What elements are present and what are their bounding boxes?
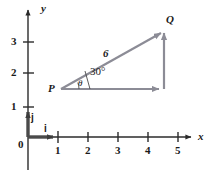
x-tick-label-1: 1 (55, 145, 61, 156)
point-p-label: P (48, 83, 55, 94)
origin-label: 0 (18, 139, 24, 150)
y-tick-label-3: 3 (11, 36, 17, 47)
x-tick-label-2: 2 (85, 145, 91, 156)
diagram-canvas (0, 0, 216, 176)
x-axis-label: x (198, 131, 204, 142)
point-q-label: Q (166, 14, 174, 25)
y-axis-label: y (41, 3, 46, 14)
y-tick-label-1: 1 (11, 101, 17, 112)
i-unit-vector-label: i (44, 124, 47, 134)
angle-value-label: 30° (90, 66, 105, 77)
x-tick-label-5: 5 (175, 145, 181, 156)
y-tick-label-2: 2 (11, 67, 17, 78)
x-tick-label-4: 4 (145, 145, 151, 156)
j-unit-vector-label: j (31, 113, 34, 123)
vector-diagram-figure: y x 0 1 2 3 4 5 1 2 3 j i P Q 6 θ 30° (0, 0, 216, 176)
magnitude-label: 6 (103, 48, 109, 59)
x-tick-label-3: 3 (115, 145, 121, 156)
vector-pq (61, 33, 161, 89)
vector-triangle (61, 33, 164, 89)
theta-label: θ (78, 79, 82, 88)
